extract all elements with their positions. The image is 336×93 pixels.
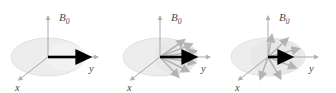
- axis-label-y: y: [308, 63, 314, 74]
- axis-label-y: y: [88, 63, 94, 74]
- axis-label-x: x: [126, 82, 132, 93]
- panel-coherent: B0 y x: [0, 0, 112, 93]
- figure-root: B0 y x: [0, 0, 336, 93]
- panel-fully-dephased: B0 y x: [224, 0, 336, 93]
- panel-partially-dephased: B0 y x: [112, 0, 224, 93]
- axis-label-b0: B0: [279, 11, 290, 26]
- axis-label-x: x: [14, 82, 20, 93]
- axis-label-b0: B0: [171, 11, 182, 26]
- axis-label-x: x: [234, 82, 240, 93]
- axis-label-b0: B0: [59, 11, 70, 26]
- axis-label-y: y: [200, 63, 206, 74]
